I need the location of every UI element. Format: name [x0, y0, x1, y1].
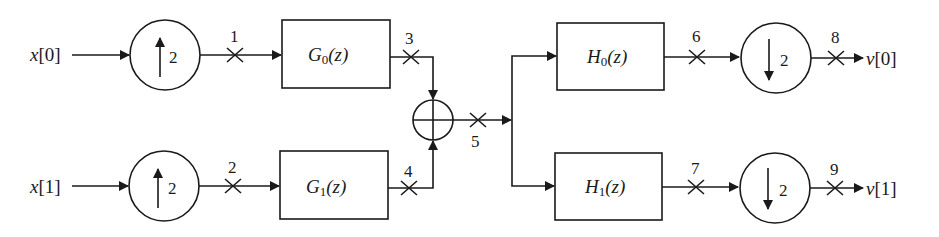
svg-text:1: 1	[230, 27, 239, 46]
svg-text:8: 8	[831, 28, 840, 47]
svg-text:2: 2	[228, 158, 237, 177]
svg-text:v[0]: v[0]	[866, 48, 897, 69]
filter-H0: H0(z)	[557, 23, 664, 90]
upsampler-0: 2	[130, 20, 200, 90]
input-x1-label: x[1]	[29, 176, 61, 197]
test-point-8: 8	[828, 28, 844, 65]
svg-text:3: 3	[405, 29, 414, 48]
svg-text:x[1]: x[1]	[29, 176, 61, 197]
svg-text:2: 2	[169, 48, 178, 67]
test-point-9: 9	[827, 160, 843, 195]
test-point-5: 5	[470, 113, 486, 151]
output-v1-label: v[1]	[866, 178, 897, 199]
wire-G0-to-sum	[390, 57, 433, 99]
svg-text:5: 5	[471, 132, 480, 151]
svg-text:H1(z): H1(z)	[584, 176, 625, 199]
svg-text:2: 2	[168, 179, 177, 198]
svg-text:G1(z): G1(z)	[306, 176, 346, 199]
filter-bank-diagram: x[0] 2 1 G0(z) 3 x[1] 2 2 G1(z)	[0, 0, 939, 237]
adder	[413, 100, 453, 140]
svg-text:G0(z): G0(z)	[308, 44, 348, 67]
downsampler-1: 2	[740, 153, 810, 223]
svg-text:2: 2	[779, 181, 788, 200]
wire-split-to-H0	[512, 56, 556, 120]
test-point-7: 7	[688, 159, 704, 194]
filter-H1: H1(z)	[555, 153, 662, 220]
test-point-2: 2	[225, 158, 241, 193]
svg-text:H0(z): H0(z)	[586, 46, 627, 69]
svg-text:x[0]: x[0]	[29, 44, 61, 65]
test-point-4: 4	[401, 162, 417, 195]
svg-text:9: 9	[830, 160, 839, 179]
test-point-1: 1	[227, 27, 243, 62]
svg-text:4: 4	[404, 162, 413, 181]
svg-text:7: 7	[691, 159, 700, 178]
wire-split-to-H1	[512, 120, 554, 186]
test-point-6: 6	[689, 27, 705, 64]
test-point-3: 3	[403, 29, 419, 64]
svg-text:2: 2	[780, 51, 789, 70]
input-x0-label: x[0]	[29, 44, 61, 65]
downsampler-0: 2	[741, 23, 811, 93]
upsampler-1: 2	[129, 151, 199, 221]
output-v0-label: v[0]	[866, 48, 897, 69]
filter-G0: G0(z)	[282, 20, 390, 88]
svg-text:v[1]: v[1]	[866, 178, 897, 199]
svg-text:6: 6	[692, 27, 701, 46]
filter-G1: G1(z)	[280, 151, 388, 219]
